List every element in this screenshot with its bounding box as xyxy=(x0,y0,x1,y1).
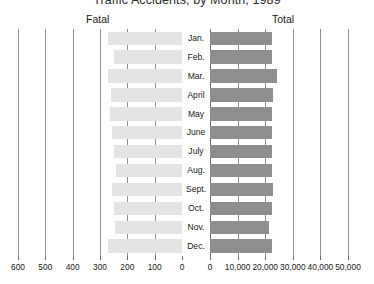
panel-header-fatal: Fatal xyxy=(86,13,109,25)
month-label: Jan. xyxy=(182,32,210,45)
page-title: Traffic Accidents, by Month, 1989 xyxy=(0,0,374,7)
month-label: Mar. xyxy=(182,70,210,83)
tick-total-50000-mark xyxy=(348,256,349,260)
tick-fatal-600-mark xyxy=(18,256,19,260)
bar-fatal-jan xyxy=(108,32,182,45)
panel-header-total: Total xyxy=(272,13,294,25)
bar-row: May xyxy=(0,105,374,124)
bar-fatal-nov xyxy=(115,221,182,234)
month-label: Nov. xyxy=(182,221,210,234)
tick-total-40000-label: 40,000 xyxy=(308,262,334,272)
bar-fatal-oct xyxy=(114,202,182,215)
tick-fatal-300-label: 300 xyxy=(93,262,107,272)
bar-row: Nov. xyxy=(0,218,374,237)
month-label: July xyxy=(182,145,210,158)
bar-total-aug xyxy=(210,164,272,177)
bar-row: Mar. xyxy=(0,67,374,86)
bar-row: April xyxy=(0,86,374,105)
bar-total-nov xyxy=(210,221,269,234)
bar-total-july xyxy=(210,145,272,158)
bar-total-mar xyxy=(210,69,277,82)
tick-fatal-600-label: 600 xyxy=(11,262,25,272)
tick-fatal-200-mark xyxy=(127,256,128,260)
bar-rows: Jan.Feb.Mar.AprilMayJuneJulyAug.Sept.Oct… xyxy=(0,29,374,256)
bar-fatal-april xyxy=(111,88,182,101)
bar-total-sept xyxy=(210,183,273,196)
tick-fatal-500-label: 500 xyxy=(38,262,52,272)
bar-fatal-mar xyxy=(108,69,182,82)
bar-total-dec xyxy=(210,239,272,252)
tick-fatal-200-label: 200 xyxy=(120,262,134,272)
bar-total-april xyxy=(210,88,273,101)
bar-row: Sept. xyxy=(0,180,374,199)
tick-fatal-500-mark xyxy=(45,256,46,260)
bar-total-oct xyxy=(210,202,272,215)
tick-fatal-400-mark xyxy=(73,256,74,260)
month-label: Feb. xyxy=(182,51,210,64)
tick-total-20000-mark xyxy=(265,256,266,260)
bar-total-feb xyxy=(210,50,272,63)
tick-fatal-300-mark xyxy=(100,256,101,260)
month-label: May xyxy=(182,108,210,121)
bar-fatal-june xyxy=(112,126,182,139)
tick-total-10000-mark xyxy=(238,256,239,260)
month-label: Dec. xyxy=(182,240,210,253)
tick-total-40000-mark xyxy=(320,256,321,260)
tick-total-0-label: 0 xyxy=(208,262,213,272)
plot-area: Jan.Feb.Mar.AprilMayJuneJulyAug.Sept.Oct… xyxy=(0,29,374,256)
tick-fatal-0-label: 0 xyxy=(180,262,185,272)
bar-row: Jan. xyxy=(0,29,374,48)
bar-fatal-dec xyxy=(108,239,182,252)
tick-total-20000-label: 20,000 xyxy=(252,262,278,272)
bar-fatal-sept xyxy=(112,183,182,196)
bar-row: Aug. xyxy=(0,161,374,180)
traffic-accidents-chart: Traffic Accidents, by Month, 1989 Fatal … xyxy=(0,0,374,284)
bar-total-jan xyxy=(210,32,272,45)
month-label: Sept. xyxy=(182,183,210,196)
tick-fatal-100-mark xyxy=(155,256,156,260)
bar-total-june xyxy=(210,126,272,139)
bar-fatal-feb xyxy=(114,50,182,63)
bar-row: Feb. xyxy=(0,48,374,67)
month-label: April xyxy=(182,89,210,102)
tick-total-0-mark xyxy=(210,256,211,260)
tick-total-30000-mark xyxy=(293,256,294,260)
bar-row: June xyxy=(0,123,374,142)
bar-fatal-july xyxy=(114,145,182,158)
bar-row: Dec. xyxy=(0,237,374,256)
tick-fatal-0-mark xyxy=(182,256,183,260)
bar-total-may xyxy=(210,107,272,120)
month-label: Oct. xyxy=(182,202,210,215)
bar-row: July xyxy=(0,142,374,161)
month-label: Aug. xyxy=(182,164,210,177)
tick-total-10000-label: 10,000 xyxy=(225,262,251,272)
tick-total-50000-label: 50,000 xyxy=(335,262,361,272)
bar-fatal-aug xyxy=(116,164,182,177)
axis-ticks: 6005004003002001000010,00020,00030,00040… xyxy=(0,256,374,284)
tick-fatal-400-label: 400 xyxy=(66,262,80,272)
month-label: June xyxy=(182,126,210,139)
bar-fatal-may xyxy=(110,107,182,120)
bar-row: Oct. xyxy=(0,199,374,218)
tick-total-30000-label: 30,000 xyxy=(280,262,306,272)
tick-fatal-100-label: 100 xyxy=(148,262,162,272)
